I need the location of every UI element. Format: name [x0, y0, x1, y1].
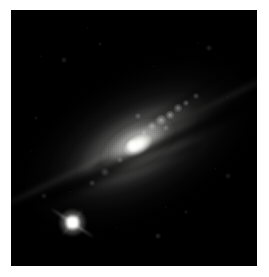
supernova-core — [68, 218, 77, 227]
supernova-marker — [72, 222, 73, 223]
sky-image-frame — [11, 10, 257, 266]
field-star — [225, 173, 230, 178]
field-star — [98, 42, 102, 46]
star-cluster-knot — [135, 113, 141, 119]
astronomical-figure: NGC 4526 SN 1994D — [0, 0, 269, 277]
field-star — [206, 45, 211, 50]
field-star — [34, 116, 38, 120]
field-star — [184, 210, 188, 214]
field-star — [61, 57, 67, 63]
field-star — [155, 233, 161, 239]
